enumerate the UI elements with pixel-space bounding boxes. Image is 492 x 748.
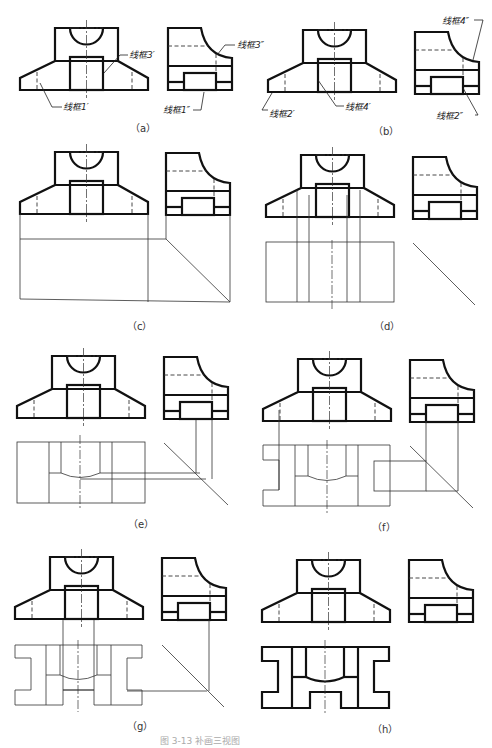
panel-g: （f） （g）	[15, 522, 396, 732]
label-frame-4-side: 线框4″	[442, 16, 470, 26]
caption-a: （a）	[130, 123, 156, 134]
caption-g: （g）	[127, 721, 153, 732]
panel-h: （h）	[262, 552, 473, 735]
panel-f	[263, 351, 474, 513]
panel-a: 线框3′ 线框1′ 线框3″ 线框1″ （a）	[20, 20, 265, 134]
caption-f: （f）	[372, 522, 396, 533]
label-frame-3-side: 线框3″	[237, 40, 265, 50]
three-view-drawing-sheet: 线框3′ 线框1′ 线框3″ 线框1″ （a） 线框2′ 线框4′ 线框4″ 线…	[0, 0, 492, 748]
caption-d: （d）	[374, 321, 400, 332]
figure-caption: 图 3-13 补画三视图	[160, 735, 240, 746]
label-frame-1-side: 线框1″	[163, 105, 191, 115]
label-frame-2-side: 线框2″	[436, 111, 464, 121]
panel-b: 线框2′ 线框4′ 线框4″ 线框2″ （b）	[262, 16, 483, 137]
panel-d: （d）	[266, 147, 477, 332]
caption-c: （c）	[127, 321, 153, 332]
label-frame-3-front: 线框3′	[129, 50, 155, 60]
label-frame-1-front: 线框1′	[63, 102, 89, 112]
label-frame-4-front: 线框4′	[345, 102, 371, 112]
caption-e: （e）	[128, 519, 154, 530]
panel-c: （c）	[20, 144, 230, 332]
caption-h: （h）	[372, 724, 398, 735]
caption-b: （b）	[373, 126, 399, 137]
label-frame-2-front: 线框2′	[269, 109, 295, 119]
panel-e: （e）	[17, 348, 228, 530]
